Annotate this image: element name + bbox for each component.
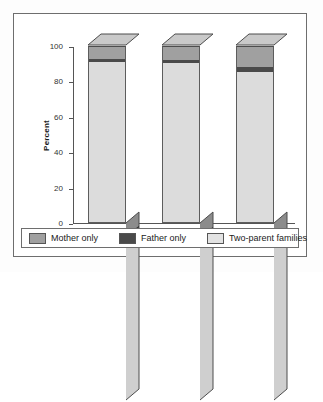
y-tick-80: 80 — [69, 82, 73, 83]
chart-legend: Mother onlyFather onlyTwo-parent familie… — [21, 228, 299, 248]
y-tick-label-40: 40 — [54, 149, 63, 157]
y-tick-20: 20 — [69, 189, 73, 190]
y-tick-40: 40 — [69, 153, 73, 154]
bar-segment-1996-mother-only — [236, 46, 274, 67]
bar-base-1996 — [236, 222, 274, 223]
legend-swatch-mother-only — [29, 233, 46, 244]
plot-area: 020406080100 196119761996 — [73, 47, 295, 224]
bar-front-1976 — [162, 46, 200, 223]
y-tick-100: 100 — [69, 47, 73, 48]
legend-item-father-only[interactable]: Father only — [119, 233, 186, 244]
y-tick-label-20: 20 — [54, 185, 63, 193]
y-axis-title-text: Percent — [42, 120, 51, 151]
y-tick-label-100: 100 — [50, 43, 63, 51]
legend-item-mother-only[interactable]: Mother only — [29, 233, 98, 244]
legend-swatch-two-parent-families — [207, 233, 224, 244]
bar-front-1996 — [236, 46, 274, 223]
legend-item-two-parent-families[interactable]: Two-parent families — [207, 233, 307, 244]
bar-segment-1976-two-parent-families — [162, 63, 200, 223]
y-tick-label-60: 60 — [54, 114, 63, 122]
chart-frame: Percent 020406080100 196119761996 — [13, 13, 307, 257]
y-axis-title: Percent — [40, 47, 52, 224]
legend-label-father-only: Father only — [141, 234, 186, 243]
bar-base-1961 — [88, 222, 126, 223]
bar-front-1961 — [88, 46, 126, 223]
legend-swatch-father-only — [119, 233, 136, 244]
legend-label-mother-only: Mother only — [51, 234, 98, 243]
bar-segment-1976-father-only — [162, 60, 200, 63]
bar-segment-1961-two-parent-families — [88, 62, 126, 223]
y-axis-line — [73, 47, 74, 224]
bar-segment-1976-mother-only — [162, 46, 200, 60]
x-axis-line — [73, 223, 295, 224]
y-tick-label-0: 0 — [59, 220, 63, 228]
bar-segment-1996-father-only — [236, 67, 274, 71]
y-tick-60: 60 — [69, 118, 73, 119]
y-tick-label-80: 80 — [54, 78, 63, 86]
legend-label-two-parent-families: Two-parent families — [229, 234, 307, 243]
bar-segment-1961-father-only — [88, 59, 126, 62]
bar-segment-1961-mother-only — [88, 46, 126, 59]
bar-base-1976 — [162, 222, 200, 223]
y-tick-0: 0 — [69, 224, 73, 225]
bar-segment-1996-two-parent-families — [236, 72, 274, 223]
